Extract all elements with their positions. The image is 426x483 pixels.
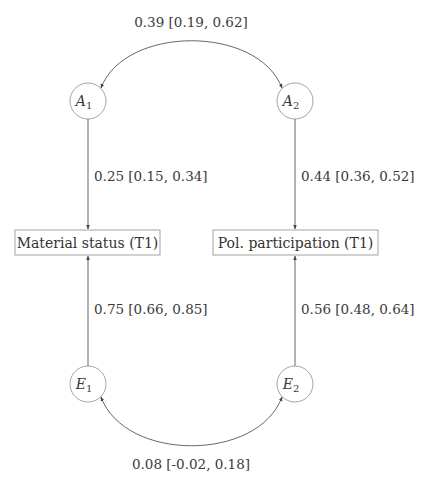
node-subscript: 2 [293, 383, 299, 394]
latent-node-a2: A2 [277, 83, 313, 119]
latent-node-e1: E1 [70, 366, 106, 402]
node-letter: A [281, 93, 293, 109]
node-subscript: 2 [293, 100, 299, 111]
path-label-e1-ms: 0.75 [0.66, 0.85] [94, 301, 208, 317]
node-letter: E [75, 376, 86, 392]
covariance-arc-a [101, 41, 282, 88]
covariance-label-e: 0.08 [-0.02, 0.18] [132, 456, 250, 472]
node-subscript: 1 [86, 383, 92, 394]
observed-label: Pol. participation (T1) [218, 235, 374, 251]
latent-node-a1: A1 [70, 83, 106, 119]
covariance-label-a: 0.39 [0.19, 0.62] [134, 14, 248, 30]
path-label-a2-pp: 0.44 [0.36, 0.52] [301, 168, 415, 184]
covariance-arc-e [101, 397, 282, 446]
node-letter: E [282, 376, 293, 392]
observed-node-pol-participation: Pol. participation (T1) [213, 230, 378, 255]
latent-node-e2: E2 [277, 366, 313, 402]
path-diagram: 0.39 [0.19, 0.62] A1 A2 0.25 [0.15, 0.34… [0, 0, 426, 483]
path-label-a1-ms: 0.25 [0.15, 0.34] [94, 168, 208, 184]
node-subscript: 1 [86, 100, 92, 111]
node-letter: A [74, 93, 86, 109]
observed-node-material-status: Material status (T1) [15, 230, 160, 255]
observed-label: Material status (T1) [17, 235, 159, 251]
path-label-e2-pp: 0.56 [0.48, 0.64] [301, 301, 415, 317]
